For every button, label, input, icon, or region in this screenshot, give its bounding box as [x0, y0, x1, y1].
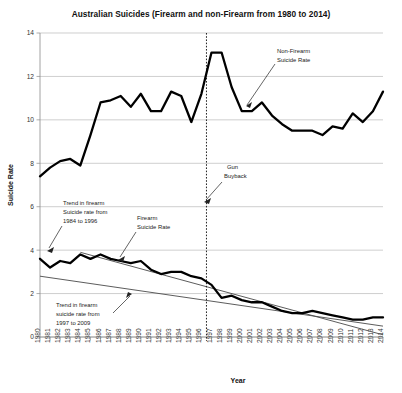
x-tick-label: 1987 [105, 328, 112, 343]
x-tick-label: 2003 [266, 328, 273, 343]
x-tick-label: 1984 [74, 328, 81, 343]
x-tick-label: 1991 [145, 328, 152, 343]
x-tick-label: 2008 [316, 328, 323, 343]
y-tick-label: 12 [27, 73, 35, 80]
x-tick-label: 2004 [276, 328, 283, 343]
x-tick-label: 2011 [347, 328, 354, 343]
x-tick-label: 2012 [357, 328, 364, 343]
x-tick-label: 1993 [165, 328, 172, 343]
annotation-gun-buyback-line1: Gun [227, 164, 238, 170]
x-tick-label: 1989 [125, 328, 132, 343]
x-tick-label: 2001 [246, 328, 253, 343]
annotation-trend-b-line1: Trend in firearm [56, 302, 97, 308]
x-tick-label: 2000 [236, 328, 243, 343]
suicide-rate-line-chart: Australian Suicides (Firearm and non-Fir… [0, 0, 402, 393]
x-tick-label: 1998 [216, 328, 223, 343]
x-tick-label: 1995 [185, 328, 192, 343]
y-tick-label: 2 [30, 290, 34, 297]
x-tick-label: 2013 [367, 328, 374, 343]
annotation-trend-b-line2: suicide rate from [56, 311, 100, 317]
x-tick-label: 1992 [155, 328, 162, 343]
chart-container: Australian Suicides (Firearm and non-Fir… [0, 0, 402, 393]
x-tick-label: 1981 [44, 328, 51, 343]
x-tick-label: 1985 [84, 328, 91, 343]
y-tick-label: 10 [27, 116, 35, 123]
y-tick-label: 14 [27, 29, 35, 36]
y-tick-label: 4 [30, 247, 34, 254]
x-tick-label: 2005 [286, 328, 293, 343]
x-tick-label: 1983 [64, 328, 71, 343]
annotation-trend-b-line3: 1997 to 2009 [56, 320, 90, 326]
x-tick-label: 2009 [327, 328, 334, 343]
x-tick-label: 1990 [135, 328, 142, 343]
x-axis-title: Year [231, 377, 246, 384]
x-tick-label: 1982 [54, 328, 61, 343]
annotation-non-firearm-line2: Suicide Rate [277, 57, 311, 63]
x-tick-label: 2007 [306, 328, 313, 343]
x-tick-label: 1994 [175, 328, 182, 343]
x-tick-label: 1999 [226, 328, 233, 343]
annotation-gun-buyback-line2: Buyback [224, 173, 247, 179]
x-axis-tick-labels: 1980198119821983198419851986198719881989… [34, 328, 384, 343]
annotation-trend-a-line2: Suicide rate from [63, 209, 108, 215]
x-tick-label: 1996 [195, 328, 202, 343]
chart-title: Australian Suicides (Firearm and non-Fir… [72, 9, 331, 19]
annotation-trend-a-line3: 1984 to 1996 [63, 218, 98, 224]
x-tick-label: 1986 [95, 328, 102, 343]
x-tick-label: 2010 [337, 328, 344, 343]
x-tick-label: 2006 [296, 328, 303, 343]
x-tick-label: 1988 [115, 328, 122, 343]
annotation-firearm-line1: Firearm [137, 215, 157, 221]
annotation-trend-a-line1: Trend in firearm [63, 200, 104, 206]
y-tick-label: 6 [30, 203, 34, 210]
x-tick-label: 2002 [256, 328, 263, 343]
annotation-firearm-line2: Suicide Rate [137, 224, 171, 230]
annotation-non-firearm-line1: Non-Firearm [277, 48, 310, 54]
y-tick-label: 8 [30, 160, 34, 167]
y-axis-title: Suicide Rate [7, 164, 14, 206]
x-tick-label: 2014 [377, 328, 384, 343]
